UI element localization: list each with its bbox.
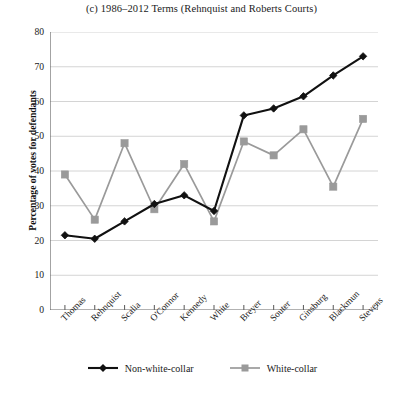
legend-label: Non-white-collar <box>125 363 194 374</box>
chart-figure: (c) 1986–2012 Terms (Rehnquist and Rober… <box>0 0 403 393</box>
y-axis-tick-label: 80 <box>16 26 44 37</box>
legend-marker-square-icon <box>228 362 262 374</box>
legend-diamond-icon <box>99 364 107 372</box>
data-point-marker <box>181 160 188 167</box>
data-point-marker <box>210 218 217 225</box>
data-point-marker <box>270 152 277 159</box>
y-axis-tick-label: 70 <box>16 61 44 72</box>
y-axis-tick-label: 0 <box>16 304 44 315</box>
data-point-marker <box>359 115 366 122</box>
legend-square-icon <box>241 365 248 372</box>
data-point-marker <box>300 126 307 133</box>
data-point-marker <box>180 192 187 199</box>
data-point-marker <box>121 140 128 147</box>
data-point-marker <box>240 138 247 145</box>
plot-area <box>50 32 378 310</box>
gridlines <box>50 32 378 275</box>
series-non-white-collar <box>61 53 367 243</box>
data-series-layer <box>61 53 367 243</box>
y-axis-tick-label: 50 <box>16 130 44 141</box>
chart-legend: Non-white-collarWhite-collar <box>0 362 403 374</box>
y-axis-tick-label: 60 <box>16 96 44 107</box>
legend-entry: White-collar <box>228 362 318 374</box>
legend-entry: Non-white-collar <box>86 362 194 374</box>
data-point-marker <box>330 183 337 190</box>
data-point-marker <box>270 105 277 112</box>
data-point-marker <box>240 112 247 119</box>
data-point-marker <box>61 171 68 178</box>
y-axis-tick-label: 10 <box>16 269 44 280</box>
data-point-marker <box>61 232 68 239</box>
chart-plot-svg <box>50 32 378 310</box>
legend-label: White-collar <box>267 363 318 374</box>
chart-title: (c) 1986–2012 Terms (Rehnquist and Rober… <box>0 3 403 14</box>
y-axis-tick-label: 30 <box>16 200 44 211</box>
data-point-marker <box>91 216 98 223</box>
y-axis-tick-label: 40 <box>16 165 44 176</box>
legend-marker-diamond-icon <box>86 362 120 374</box>
y-axis-tick-label: 20 <box>16 235 44 246</box>
